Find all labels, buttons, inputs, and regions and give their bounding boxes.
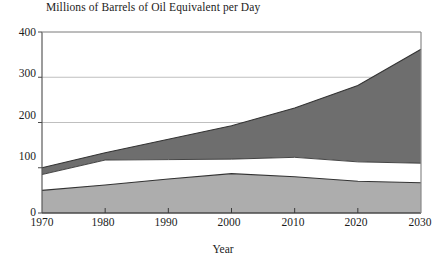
y-tick-label: 400 [0,26,36,38]
x-axis-title: Year [0,243,446,255]
x-tick-label: 2020 [332,216,380,228]
x-tick-label: 2010 [269,216,317,228]
x-tick-label: 1970 [18,216,66,228]
x-tick-label: 1980 [79,216,127,228]
y-tick-label: 200 [0,109,36,121]
x-tick-label: 1990 [142,216,190,228]
y-tick-label: 300 [0,67,36,79]
x-tick-label: 2000 [205,216,253,228]
x-tick-label: 2030 [396,216,444,228]
y-tick-label: 100 [0,150,36,162]
chart-container: Millions of Barrels of Oil Equivalent pe… [0,0,446,264]
